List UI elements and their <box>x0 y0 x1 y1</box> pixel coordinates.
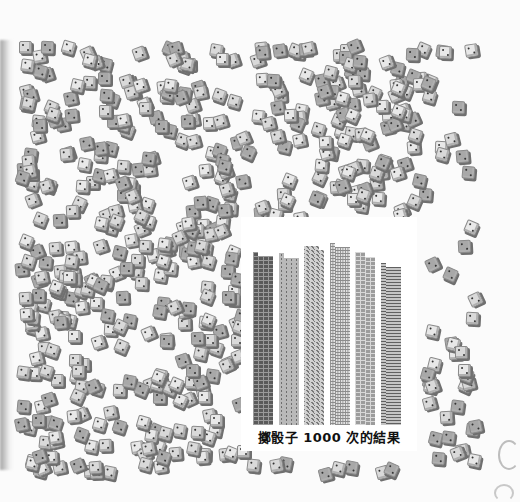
die-icon <box>94 215 109 230</box>
die-icon <box>467 453 482 468</box>
bar-stack-column <box>268 256 273 425</box>
die-icon <box>210 414 223 427</box>
die-icon <box>141 151 156 166</box>
die-icon <box>16 399 30 413</box>
die-icon <box>198 391 211 404</box>
die-icon <box>34 270 49 285</box>
die-icon <box>132 77 149 94</box>
die-icon <box>216 53 229 66</box>
die-icon <box>51 374 64 387</box>
die-icon <box>464 43 479 58</box>
die-icon <box>99 88 113 102</box>
die-icon <box>348 74 362 88</box>
die-icon <box>77 157 92 172</box>
die-icon <box>455 346 468 359</box>
die-icon <box>66 409 80 423</box>
die-icon <box>205 368 220 383</box>
die-icon <box>32 211 49 228</box>
bar-face-1 <box>253 252 273 425</box>
die-icon <box>186 364 199 377</box>
die-icon <box>246 458 260 472</box>
die-icon <box>38 255 52 269</box>
die-icon <box>20 307 34 321</box>
bar-face-3 <box>304 246 324 425</box>
die-icon <box>224 251 239 266</box>
die-icon <box>32 289 45 302</box>
die-icon <box>467 291 484 308</box>
chart-panel: 擲骰子 1000 次的結果 <box>241 217 417 451</box>
die-icon <box>284 108 297 121</box>
die-icon <box>152 304 167 319</box>
die-icon <box>272 43 287 58</box>
die-icon <box>186 254 201 269</box>
bar-stack-column <box>370 257 375 425</box>
die-icon <box>102 465 117 480</box>
chart-caption: 擲骰子 1000 次的結果 <box>241 427 417 446</box>
die-icon <box>269 458 284 473</box>
die-icon <box>24 192 41 209</box>
die-icon <box>72 365 85 378</box>
die-icon <box>424 323 439 338</box>
die-icon <box>113 338 130 355</box>
die-icon <box>90 334 107 351</box>
die-icon <box>439 46 452 59</box>
die-icon <box>100 308 115 323</box>
die-icon <box>137 456 153 472</box>
die-icon <box>172 423 187 438</box>
die-icon <box>103 404 118 419</box>
die-icon <box>79 136 94 151</box>
die-icon <box>442 266 459 283</box>
die-icon <box>442 430 457 445</box>
die-icon <box>99 439 113 453</box>
die-icon <box>434 147 450 163</box>
die-icon <box>235 174 250 189</box>
die-icon <box>177 317 190 330</box>
die-icon <box>115 113 130 128</box>
die-icon <box>457 240 471 254</box>
die-icon <box>352 55 366 69</box>
die-icon <box>180 114 194 128</box>
die-icon <box>222 290 235 303</box>
die-icon <box>181 216 196 231</box>
die-icon <box>141 441 156 456</box>
die-icon <box>47 415 63 431</box>
die-icon <box>64 109 78 123</box>
die-icon <box>467 418 482 433</box>
die-icon <box>443 132 459 148</box>
die-icon <box>440 411 454 425</box>
die-icon <box>33 119 46 132</box>
die-icon <box>292 132 307 147</box>
die-icon <box>89 461 103 475</box>
die-icon <box>19 41 32 54</box>
die-icon <box>227 93 243 109</box>
bar-face-6 <box>381 263 401 425</box>
bar-face-5 <box>355 252 375 425</box>
die-icon <box>157 237 172 252</box>
die-icon <box>74 301 89 316</box>
die-icon <box>76 179 90 193</box>
die-icon <box>111 245 127 261</box>
bar-face-2 <box>279 253 299 425</box>
die-icon <box>362 93 377 108</box>
bar-chart <box>253 217 403 425</box>
die-icon <box>139 102 152 115</box>
die-icon <box>330 460 346 476</box>
die-icon <box>64 254 79 269</box>
die-icon <box>406 47 419 60</box>
die-icon <box>19 291 33 305</box>
die-icon <box>181 175 197 191</box>
die-icon <box>63 91 78 106</box>
die-icon <box>211 87 228 104</box>
die-icon <box>21 96 37 112</box>
die-icon <box>281 172 298 189</box>
bar-stack-column <box>396 267 401 425</box>
die-icon <box>134 277 148 291</box>
die-icon <box>62 271 75 284</box>
die-icon <box>40 41 53 54</box>
die-icon <box>376 99 389 112</box>
die-icon <box>461 165 475 179</box>
die-icon <box>458 364 471 377</box>
die-icon <box>160 335 173 348</box>
die-icon <box>452 100 465 113</box>
die-icon <box>261 116 277 132</box>
